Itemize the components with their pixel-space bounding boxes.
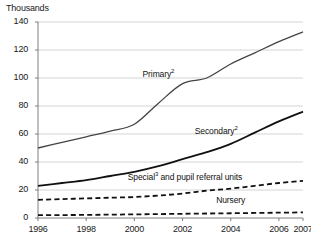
y-axis-tick-label: 100 xyxy=(2,72,28,82)
series-annotation-label: Special3 and pupil referral units xyxy=(128,171,242,182)
x-axis-tick-label: 1996 xyxy=(18,224,58,234)
x-axis-tick-label: 2002 xyxy=(163,224,203,234)
y-axis-tick-label: 60 xyxy=(2,128,28,138)
series-line xyxy=(38,212,303,215)
x-axis-tick-label: 2007 xyxy=(283,224,311,234)
y-axis-tick-label: 40 xyxy=(2,156,28,166)
series-line xyxy=(38,32,303,148)
y-axis-tick-label: 20 xyxy=(2,184,28,194)
y-axis-tick-label: 80 xyxy=(2,100,28,110)
series-annotation-label: Secondary2 xyxy=(195,125,238,136)
y-axis-tick-label: 140 xyxy=(2,16,28,26)
series-annotation-label: Nursery xyxy=(216,195,245,205)
x-axis-tick-label: 2004 xyxy=(211,224,251,234)
series-annotation-label: Primary2 xyxy=(143,68,175,79)
x-axis-tick-label: 1998 xyxy=(66,224,106,234)
chart-plot-area xyxy=(0,0,311,244)
x-axis-tick-label: 2000 xyxy=(114,224,154,234)
chart-container: Thousands 020406080100120140199619982000… xyxy=(0,0,311,244)
y-axis-tick-label: 120 xyxy=(2,44,28,54)
y-axis-tick-label: 0 xyxy=(2,212,28,222)
